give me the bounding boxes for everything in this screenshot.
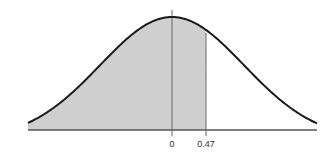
shaded-area — [28, 17, 206, 130]
normal-distribution-chart: 0 0.47 — [0, 0, 336, 159]
tick-label-zero: 0 — [169, 139, 174, 149]
tick-label-z-value: 0.47 — [197, 139, 215, 149]
